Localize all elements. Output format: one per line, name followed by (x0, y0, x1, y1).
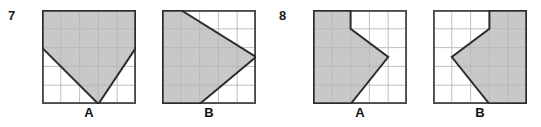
problem-8-group: 8 A B (271, 0, 541, 127)
problem-7-figure-b-label: B (162, 105, 256, 120)
problem-7-figure-b-svg (162, 10, 256, 104)
problem-7-figure-a-label: A (42, 105, 136, 120)
problem-7-figure-b (162, 10, 256, 104)
problem-8-figure-b-label: B (433, 105, 527, 120)
problem-7-figure-a (42, 10, 136, 104)
problem-number-7: 7 (8, 8, 15, 23)
problem-8-figure-b (433, 10, 527, 104)
shaded-region (42, 10, 136, 104)
problem-7-figure-a-svg (42, 10, 136, 104)
problem-number-8: 8 (279, 8, 286, 23)
worksheet-figure-sheet: 7 A B 8 A B (0, 0, 541, 127)
problem-8-figure-a-svg (313, 10, 407, 104)
problem-8-figure-a (313, 10, 407, 104)
problem-8-figure-b-svg (433, 10, 527, 104)
problem-8-figure-a-label: A (313, 105, 407, 120)
problem-7-group: 7 A B (0, 0, 270, 127)
shaded-region (162, 10, 256, 104)
